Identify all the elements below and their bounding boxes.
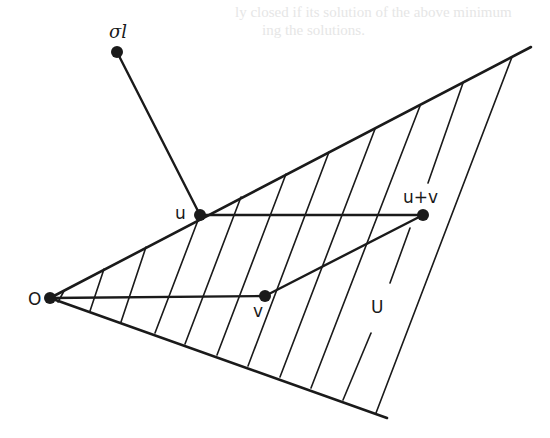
label-u-plus-v: u+v [403, 187, 438, 207]
hatch-line [343, 333, 371, 400]
hatch-line [185, 197, 241, 344]
hatch-lines [58, 57, 512, 413]
label-region-U: U [371, 297, 383, 317]
point-u_plus_v [417, 209, 429, 221]
hatch-line [217, 174, 286, 355]
hatch-line [376, 57, 512, 413]
label-sigma-l: σl [109, 21, 127, 42]
segment-sigma-to-u [117, 52, 200, 215]
cone-boundaries [50, 47, 531, 418]
label-O: O [28, 289, 41, 309]
point-u [194, 209, 206, 221]
cone-diagram: O u v u+v σl U [0, 0, 550, 438]
point-sigma_l [111, 46, 123, 58]
vector-segments [50, 52, 423, 298]
cone-boundary-lower [50, 298, 387, 418]
label-u: u [175, 203, 186, 223]
hatch-line [248, 152, 329, 366]
point-O [44, 292, 56, 304]
segment-O-to-v [50, 296, 265, 298]
label-v: v [253, 301, 263, 321]
points [44, 46, 429, 304]
cone-boundary-upper [50, 47, 531, 298]
hatch-line [280, 129, 375, 377]
hatch-line [390, 228, 410, 283]
